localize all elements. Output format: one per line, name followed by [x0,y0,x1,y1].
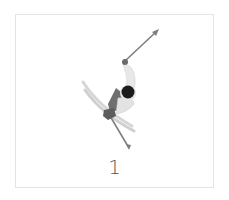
hand-icon [122,59,128,65]
figure-caption: 1 [0,157,229,177]
head-icon [120,85,136,101]
upper-pole-icon [125,29,159,61]
lower-pole-icon [110,116,131,150]
